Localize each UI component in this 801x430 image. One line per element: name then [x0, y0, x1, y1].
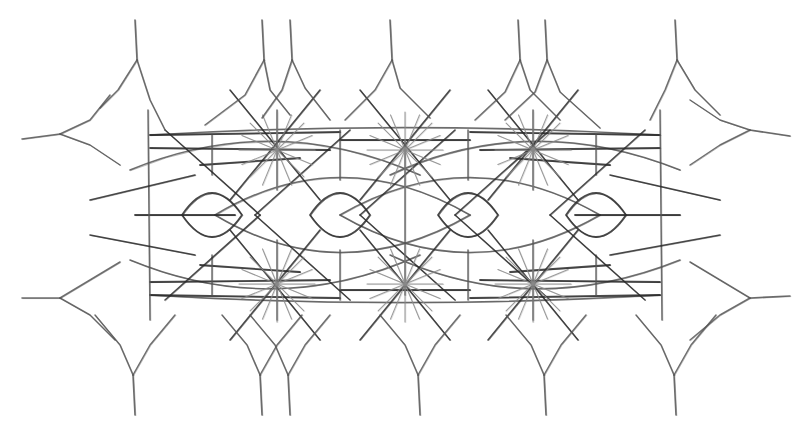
diagonal-stroke — [166, 131, 261, 216]
cusp-arm — [134, 316, 176, 376]
diagonal-stroke — [551, 131, 646, 216]
cusp-arm — [637, 316, 675, 376]
cusp-arm — [61, 135, 121, 166]
cusp-arm — [691, 263, 751, 299]
cusp-arm — [419, 316, 461, 376]
diagonal-stroke — [91, 176, 196, 201]
cusp-arm — [392, 60, 430, 118]
horizontal-stroke — [201, 159, 301, 166]
arc-stroke — [340, 215, 600, 253]
diagonal-stroke — [610, 235, 720, 255]
diagonal-stroke — [611, 236, 721, 256]
diagonal-stroke — [610, 175, 720, 200]
cusp-arm — [60, 298, 115, 340]
cusp-arm — [393, 61, 431, 119]
cusp-arm — [678, 61, 721, 116]
geometric-pattern-drawing — [0, 0, 801, 430]
cusp-arm — [506, 315, 544, 375]
diagonal-stroke — [90, 175, 195, 200]
cusp-arm — [60, 95, 110, 134]
cusp-arm — [60, 262, 120, 298]
cusp-arm — [636, 315, 674, 375]
cusp-arm — [520, 60, 560, 120]
cusp-stem — [23, 135, 61, 140]
arc-stroke — [341, 216, 601, 254]
cusp-arm — [677, 60, 720, 115]
cusp-arm — [507, 316, 545, 376]
cusp-arm — [60, 134, 120, 165]
cusp-arm — [264, 60, 290, 115]
cusp-arm — [506, 61, 548, 121]
cusp-arm — [650, 60, 677, 120]
cusp-arm — [521, 61, 561, 121]
cusp-stem — [750, 130, 790, 136]
cusp-arm — [475, 60, 520, 120]
diagonal-stroke — [611, 176, 721, 201]
cusp-arm — [96, 316, 134, 376]
cusp-arm — [261, 316, 303, 376]
diagonal-stroke — [90, 235, 195, 255]
cusp-strokes — [22, 20, 791, 416]
cusp-arm — [222, 315, 260, 375]
cusp-stem — [22, 134, 60, 139]
cusp-arm — [505, 60, 547, 120]
cusp-arm — [205, 60, 264, 125]
diagonal-stroke — [91, 236, 196, 256]
cusp-arm — [691, 131, 751, 166]
cusp-arm — [345, 60, 392, 120]
cusp-arm — [61, 299, 116, 341]
cusp-stem — [751, 131, 791, 137]
cusp-arm — [95, 315, 133, 375]
cusp-arm — [138, 61, 166, 131]
cusp-arm — [61, 263, 121, 299]
cusp-arm — [61, 96, 111, 135]
cusp-arm — [206, 61, 265, 126]
cusp-arm — [292, 60, 330, 120]
cusp-arm — [380, 315, 418, 375]
cusp-arm — [381, 316, 419, 376]
cusp-arm — [293, 61, 331, 121]
